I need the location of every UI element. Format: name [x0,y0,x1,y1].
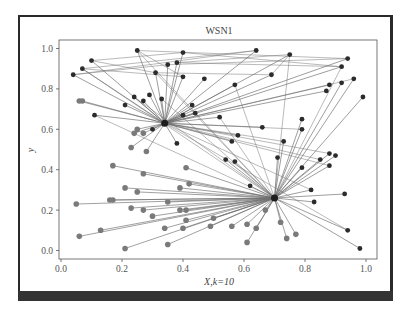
dark-node [175,141,180,146]
dark-node [159,97,164,102]
light-node [128,205,134,211]
x-tick-label: 0.4 [177,264,189,274]
dark-node [327,163,332,168]
light-node [141,131,147,137]
light-node [122,246,128,252]
light-node [128,145,134,151]
cluster-head [271,194,278,201]
light-node [278,219,284,225]
x-tick-label: 0.8 [299,264,311,274]
dark-node [339,80,344,85]
light-node [110,163,116,169]
dark-node [236,133,241,138]
light-node [229,223,235,229]
dark-node [229,139,234,144]
y-tick-label: 0.8 [41,84,53,94]
light-node [141,207,147,213]
dark-node [339,64,344,69]
dark-node [232,159,237,164]
y-axis-label: y [25,147,36,153]
dark-node [254,48,259,53]
light-node [144,149,150,155]
dark-node [309,188,314,193]
light-node [177,185,183,191]
light-node [208,223,214,229]
light-node [183,207,189,213]
dark-node [300,165,305,170]
y-tick-label: 0.0 [41,246,53,256]
dark-node [147,93,152,98]
dark-node [132,95,137,100]
light-node [134,189,140,195]
y-tick-label: 0.4 [41,165,53,175]
dark-node [351,76,356,81]
dark-node [193,111,198,116]
light-node [284,236,290,242]
plot-area [59,40,377,259]
light-node [180,225,186,231]
dark-node [300,127,305,132]
light-node [211,215,217,221]
y-axis: 0.00.20.40.60.81.0 [41,44,59,256]
light-node [150,213,156,219]
x-tick-label: 0.6 [238,264,250,274]
light-node [162,225,168,231]
dark-node [165,62,170,67]
dark-node [287,52,292,57]
dark-node [345,56,350,61]
x-tick-label: 0.2 [116,264,128,274]
dark-node [324,89,329,94]
dark-node [223,157,228,162]
dark-node [181,74,186,79]
light-node [244,221,250,227]
light-node [253,225,259,231]
dark-node [92,113,97,118]
light-node [77,234,83,240]
dark-node [281,139,286,144]
light-node [131,131,137,137]
dark-node [318,157,323,162]
dark-node [358,246,363,251]
light-node [80,98,86,104]
y-tick-label: 0.2 [41,206,53,216]
light-node [186,181,192,187]
light-node [141,171,147,177]
cluster-head [161,120,168,127]
x-axis-label: X,k=10 [203,276,234,287]
light-node [122,185,128,191]
dark-node [190,103,195,108]
light-node [73,201,79,207]
dark-node [217,115,222,120]
dark-node [153,70,158,75]
dark-node [150,127,155,132]
dark-node [135,48,140,53]
chart: WSN1 0.00.20.40.60.81.0 0.00.20.40.60.81… [0,0,407,317]
light-node [183,165,189,171]
dark-node [275,155,280,160]
light-node [110,197,116,203]
x-tick-label: 0.0 [55,264,67,274]
light-node [98,228,104,234]
x-tick-label: 1.0 [360,264,372,274]
dark-node [312,200,317,205]
dark-node [202,76,207,81]
dark-node [175,60,180,65]
dark-node [181,113,186,118]
dark-node [333,153,338,158]
light-node [263,207,269,213]
dark-node [89,58,94,63]
dark-node [345,228,350,233]
dark-node [361,95,366,100]
light-node [244,240,250,246]
dark-node [181,50,186,55]
light-node [293,232,299,238]
light-node [183,217,189,223]
dark-node [269,72,274,77]
dark-node [123,103,128,108]
dark-node [71,72,76,77]
dark-node [300,117,305,122]
chart-title: WSN1 [205,25,232,36]
dark-node [342,192,347,197]
dark-node [141,99,146,104]
dark-node [80,66,85,71]
